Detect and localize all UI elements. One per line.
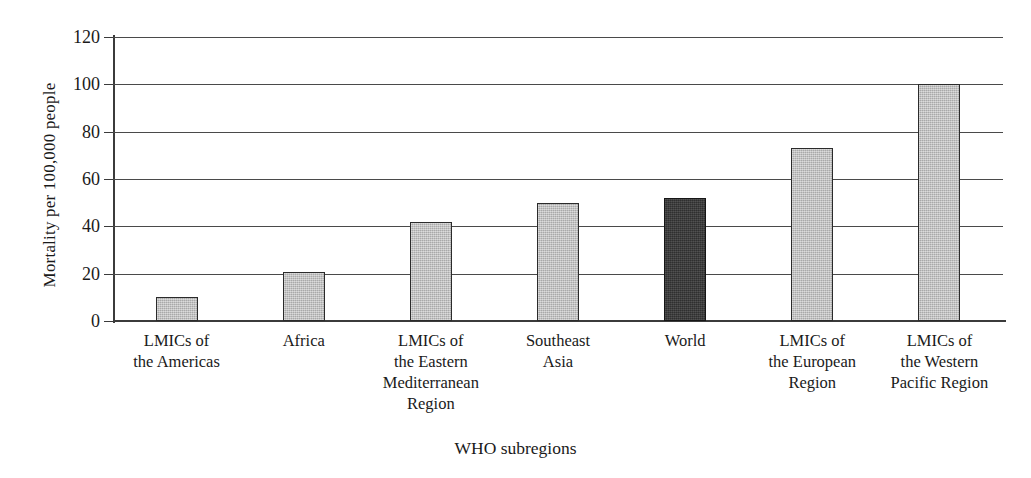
gridline <box>113 179 1003 180</box>
x-axis-title: WHO subregions <box>0 438 1031 459</box>
bar-4 <box>664 198 706 321</box>
gridline <box>113 37 1003 38</box>
bar-5 <box>791 148 833 321</box>
gridline <box>113 84 1003 85</box>
bar-2 <box>410 222 452 321</box>
bar-1 <box>283 272 325 321</box>
y-tick-mark <box>104 321 113 322</box>
bar-6 <box>918 84 960 321</box>
y-tick-label: 40 <box>82 216 100 237</box>
plot-area: 0 20 40 60 80 100 12 <box>113 37 1003 321</box>
category-label-3: Southeast Asia <box>494 330 621 372</box>
y-tick-mark <box>104 274 113 275</box>
bar-3 <box>537 203 579 321</box>
y-tick-label: 20 <box>82 263 100 284</box>
y-axis-title: Mortality per 100,000 people <box>40 25 60 345</box>
y-tick-label: 80 <box>82 121 100 142</box>
y-tick-mark <box>104 84 113 85</box>
category-label-0: LMICs of the Americas <box>113 330 240 372</box>
bar-0 <box>156 297 198 321</box>
bar-chart-figure: Mortality per 100,000 people 0 20 40 60 … <box>0 0 1031 478</box>
y-tick-mark <box>104 226 113 227</box>
category-label-5: LMICs of the European Region <box>749 330 876 393</box>
y-tick-label: 120 <box>73 27 100 48</box>
category-label-1: Africa <box>240 330 367 351</box>
y-tick-mark <box>104 132 113 133</box>
y-tick-mark <box>104 37 113 38</box>
gridline <box>113 132 1003 133</box>
y-tick-mark <box>104 179 113 180</box>
category-label-4: World <box>622 330 749 351</box>
y-tick-label: 0 <box>91 311 100 332</box>
y-tick-label: 60 <box>82 169 100 190</box>
y-tick-label: 100 <box>73 74 100 95</box>
category-label-2: LMICs of the Eastern Mediterranean Regio… <box>367 330 494 414</box>
category-label-6: LMICs of the Western Pacific Region <box>876 330 1003 393</box>
